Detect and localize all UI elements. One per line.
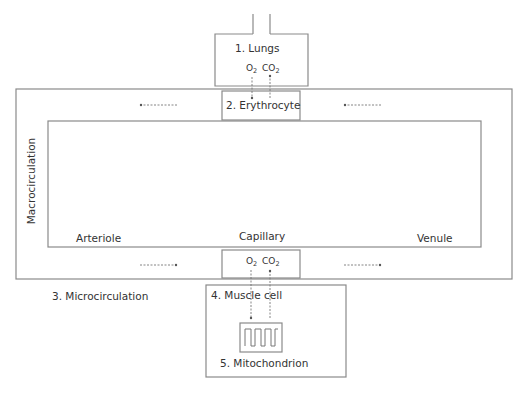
macrocirculation-label: Macrocirculation [25,138,37,224]
inner-circulation-loop [48,121,481,247]
co2-label-bottom: CO2 [262,257,280,268]
diagram-canvas [0,0,527,394]
capillary-label: Capillary [239,231,285,242]
o2-label-bottom: O2 [246,257,257,268]
mitochondrion-label: 5. Mitochondrion [220,358,308,369]
mitochondrion-cristae-icon [245,329,278,346]
lungs-label: 1. Lungs [235,43,279,54]
muscle-cell-label: 4. Muscle cell [211,290,282,301]
co2-label-top: CO2 [262,64,280,75]
o2-label-top: O2 [246,64,257,75]
microcirculation-label: 3. Microcirculation [52,291,148,302]
venule-label: Venule [417,233,453,244]
erythrocyte-box-bottom [222,250,300,278]
trachea [253,14,270,34]
arteriole-label: Arteriole [76,233,121,244]
erythrocyte-label: 2. Erythrocyte [226,100,300,111]
